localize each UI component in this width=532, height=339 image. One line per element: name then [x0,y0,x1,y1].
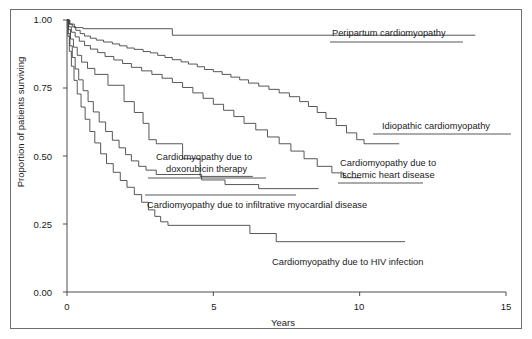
label-doxorubicin-therapy-line1: Cardiomyopathy due to [156,152,252,164]
label-ischemic-heart-disease-line1: Cardiomyopathy due to [340,158,436,170]
y-tick-1.00: 1.00 [16,14,52,25]
survival-plot [0,0,532,339]
label-infiltrative-myocardial-disease: Cardiomyopathy due to infiltrative myoca… [147,200,367,212]
y-axis-title: Proportion of patients surviving [15,57,26,187]
figure-page: 1.00 0.75 0.50 0.25 0.00 0 5 10 15 Years… [0,0,532,339]
x-tick-10: 10 [349,301,369,312]
label-peripartum-cardiomyopathy: Peripartum cardiomyopathy [332,28,446,40]
y-axis-title-wrap: Proportion of patients surviving [10,42,28,202]
x-axis-title: Years [271,317,295,328]
label-doxorubicin-therapy-line2: doxorubicin therapy [166,164,247,176]
x-tick-15: 15 [496,301,516,312]
label-hiv-infection: Cardiomyopathy due to HIV infection [272,257,423,269]
x-tick-5: 5 [204,301,224,312]
y-tick-0.25: 0.25 [16,219,52,230]
y-tick-0.00: 0.00 [16,287,52,298]
x-tick-0: 0 [57,301,77,312]
label-idiopathic-cardiomyopathy: Idiopathic cardiomyopathy [382,121,490,133]
label-ischemic-heart-disease-line2: ischemic heart disease [340,170,435,182]
axes-lines [63,20,506,296]
